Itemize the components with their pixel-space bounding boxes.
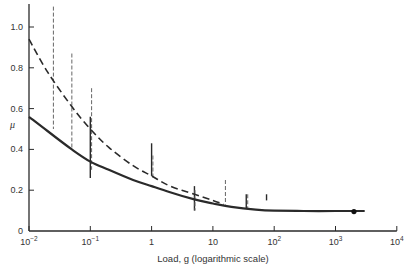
data-points [351, 209, 356, 214]
x-tick-label: 102 [267, 235, 281, 247]
y-tick-label: 0 [18, 226, 23, 236]
axes [29, 4, 397, 231]
y-tick-label: 0.4 [10, 144, 23, 154]
error-bars [53, 7, 266, 211]
data-series [29, 39, 365, 211]
x-tick-label: 10−1 [82, 235, 100, 247]
x-tick-label: 103 [329, 235, 343, 247]
y-axis-label: μ [9, 119, 15, 130]
x-tick-label: 1 [149, 237, 154, 247]
solid-curve [29, 117, 365, 211]
x-tick-label: 10−2 [20, 235, 38, 247]
dashed-curve [29, 39, 224, 204]
y-tick-label: 0.2 [10, 185, 23, 195]
data-point-marker [351, 209, 356, 214]
x-axis-ticks: 10−210−1110102103104 [20, 226, 404, 247]
x-tick-label: 104 [390, 235, 404, 247]
friction-vs-load-chart: 10−210−1110102103104 00.20.40.60.81.0 μ … [0, 0, 410, 269]
x-axis-label: Load, g (logarithmic scale) [157, 253, 268, 264]
y-tick-label: 1.0 [10, 22, 23, 32]
y-tick-label: 0.8 [10, 63, 23, 73]
y-tick-label: 0.6 [10, 104, 23, 114]
x-tick-label: 10 [208, 237, 218, 247]
